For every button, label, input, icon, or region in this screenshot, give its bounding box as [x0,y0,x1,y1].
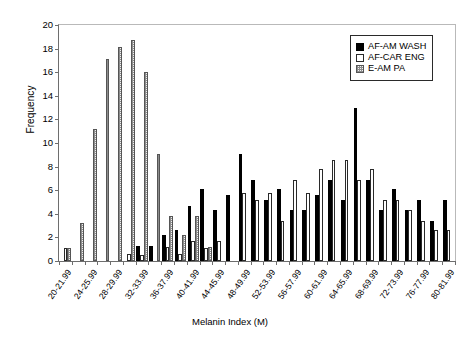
x-axis-tick [366,261,367,265]
bar [392,189,396,261]
bar [447,230,451,261]
bar [264,200,268,261]
x-axis-tick-label: 20-21.99 [47,268,74,301]
x-axis-tick [276,261,277,265]
bar [421,221,425,261]
bar [417,200,421,261]
bar [319,169,323,261]
legend-swatch-af-am-wash [356,43,364,51]
bar [357,180,361,261]
bar [213,210,217,261]
bar-group [251,25,264,261]
x-axis-tick-label: 60-61.99 [302,268,329,301]
bar-group [187,25,200,261]
x-axis-tick [340,261,341,265]
x-axis-tick [212,261,213,265]
x-axis-tick [59,261,60,265]
bar [106,59,110,261]
bar [239,154,243,261]
bar-group [442,25,455,261]
bar-group [136,25,149,261]
x-axis-tick [417,261,418,265]
x-axis-tick [174,261,175,265]
y-axis-tick-label: 2 [48,233,53,243]
bar [379,210,383,261]
legend-label-af-am-wash: AF-AM WASH [368,42,426,51]
bar [268,193,272,261]
x-axis-tick-label: 76-77.99 [404,268,431,301]
y-axis-tick-label: 6 [48,185,53,195]
bar-group [85,25,98,261]
bar [251,180,255,261]
x-axis-tick [85,261,86,265]
bar [162,235,166,261]
x-axis-tick [404,261,405,265]
x-axis-tick [429,261,430,265]
bar [93,129,97,261]
x-axis-tick [187,261,188,265]
bar [290,210,294,261]
legend-swatch-af-car-eng [356,54,364,62]
bar [443,200,447,261]
x-axis-tick-label: 68-69.99 [353,268,380,301]
legend-label-e-am-pa: E-AM PA [368,64,405,73]
bar [195,216,199,261]
bar-group [314,25,327,261]
bar [64,248,68,261]
bar [166,247,170,261]
x-axis-tick-label: 36-37.99 [149,268,176,301]
y-axis-tick-label: 20 [42,20,53,30]
bar [80,223,84,261]
bar-group [225,25,238,261]
y-axis-tick-label: 10 [42,138,53,148]
y-axis-tick-label: 4 [48,209,53,219]
legend-label-af-car-eng: AF-CAR ENG [368,53,425,62]
x-axis-tick-label: 44-45.99 [200,268,227,301]
bar-group [123,25,136,261]
y-axis-tick-label: 8 [48,162,53,172]
x-axis-tick [455,261,456,265]
bar [277,189,281,261]
bar-group [263,25,276,261]
bar [175,230,179,261]
x-axis-tick [148,261,149,265]
x-axis-tick [110,261,111,265]
bar [396,200,400,261]
bar-group [238,25,251,261]
y-axis-tick-label: 16 [42,67,53,77]
bar [370,169,374,261]
bar-group [302,25,315,261]
bar-group [174,25,187,261]
x-axis-tick [136,261,137,265]
x-axis-tick-label: 56-57.99 [276,268,303,301]
x-axis-tick-label: 72-73.99 [379,268,406,301]
bar [242,193,246,261]
x-axis-tick [72,261,73,265]
bar [178,254,182,261]
y-axis-tick-label: 0 [48,256,53,266]
y-axis-title: Frequency [25,50,36,170]
bar [408,210,412,261]
x-axis-tick [442,261,443,265]
bar [430,221,434,261]
bar [182,235,186,261]
bar [293,180,297,261]
x-axis-tick-label: 28-29.99 [98,268,125,301]
bar [226,195,230,261]
x-axis-tick-label: 40-41.99 [174,268,201,301]
bar-group [200,25,213,261]
y-axis-tick-label: 12 [42,115,53,125]
x-axis-tick [391,261,392,265]
x-axis-tick [123,261,124,265]
x-axis-tick [327,261,328,265]
bar [127,254,131,261]
bar [366,180,370,261]
bar [255,200,259,261]
x-axis-tick-label: 24-25.99 [72,268,99,301]
bar-group [59,25,72,261]
bar-group [327,25,340,261]
bar-group [72,25,85,261]
chart-figure: Frequency Melanin Index (M) 024681012141… [0,0,473,343]
y-axis-tick-label: 14 [42,91,53,101]
x-axis-tick [353,261,354,265]
